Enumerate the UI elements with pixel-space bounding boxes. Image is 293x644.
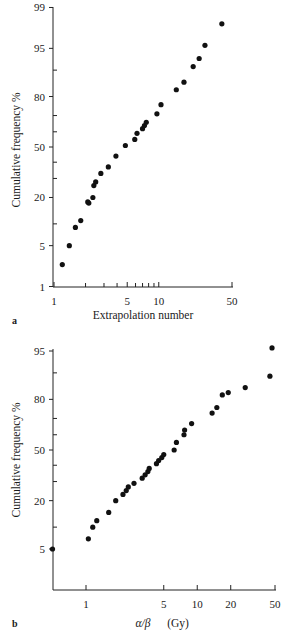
data-points	[50, 345, 275, 551]
figure-canvas: 152050809599 151050 Cumulative frequency…	[0, 0, 293, 644]
y-axis-title: Cumulative frequency %	[10, 92, 23, 207]
data-point	[67, 243, 72, 248]
data-point	[182, 427, 187, 432]
x-tick-label: 20	[225, 598, 237, 610]
data-point	[73, 225, 78, 230]
data-point	[189, 421, 194, 426]
y-axis-title: Cumulative frequency %	[10, 402, 23, 517]
y-tick-label: 50	[34, 141, 46, 153]
y-tick-label: 95	[34, 42, 46, 54]
x-tick-label: 1	[83, 598, 89, 610]
y-tick-label: 99	[34, 1, 46, 13]
data-point	[202, 43, 207, 48]
data-point	[144, 120, 149, 125]
x-axis-ticks: 15102050	[83, 585, 281, 610]
y-tick-label: 50	[34, 444, 46, 456]
chart-panel-b: 520508095 15102050 Cumulative frequency …	[10, 345, 281, 630]
data-point	[214, 405, 219, 410]
data-point	[197, 56, 202, 61]
data-point	[219, 21, 224, 26]
y-tick-label: 20	[34, 495, 46, 507]
data-point	[181, 80, 186, 85]
data-point	[123, 143, 128, 148]
data-point	[98, 171, 103, 176]
data-point	[134, 131, 139, 136]
x-tick-label: 50	[227, 295, 239, 307]
data-point	[154, 111, 159, 116]
data-point	[132, 137, 137, 142]
x-tick-label: 50	[270, 598, 282, 610]
data-point	[267, 374, 272, 379]
data-point	[269, 345, 274, 350]
data-point	[106, 510, 111, 515]
x-tick-label: 1	[51, 295, 57, 307]
x-tick-label: 5	[124, 295, 130, 307]
y-axis-ticks: 520508095	[34, 345, 57, 555]
x-tick-label: 10	[192, 598, 204, 610]
panel-label: b	[12, 618, 18, 629]
x-axis-unit: (Gy)	[167, 617, 189, 630]
y-tick-label: 5	[40, 240, 46, 252]
chart-panel-a: 152050809599 151050 Cumulative frequency…	[10, 1, 238, 326]
data-point	[158, 102, 163, 107]
data-point	[209, 411, 214, 416]
x-axis-title: Extrapolation number	[93, 309, 194, 322]
data-point	[86, 536, 91, 541]
data-point	[90, 525, 95, 530]
y-tick-label: 20	[34, 191, 46, 203]
data-point	[131, 481, 136, 486]
data-point	[90, 195, 95, 200]
data-point	[220, 392, 225, 397]
data-point	[93, 179, 98, 184]
x-axis-ticks: 151050	[51, 282, 238, 307]
data-point	[147, 466, 152, 471]
data-point	[161, 452, 166, 457]
data-point	[174, 440, 179, 445]
data-point	[226, 390, 231, 395]
x-axis-title: α/β	[136, 617, 151, 630]
data-point	[113, 153, 118, 158]
data-point	[94, 518, 99, 523]
y-tick-label: 80	[34, 393, 46, 405]
panel-label: a	[12, 315, 17, 326]
x-tick-label: 10	[153, 295, 165, 307]
data-point	[181, 432, 186, 437]
data-point	[126, 484, 131, 489]
y-tick-label: 1	[40, 281, 46, 293]
data-point	[113, 498, 118, 503]
data-point	[172, 447, 177, 452]
data-point	[50, 546, 55, 551]
data-point	[86, 200, 91, 205]
data-point	[60, 262, 65, 267]
data-point	[106, 164, 111, 169]
y-tick-label: 5	[40, 543, 46, 555]
data-point	[191, 64, 196, 69]
y-tick-label: 80	[34, 91, 46, 103]
data-point	[78, 218, 83, 223]
data-point	[243, 385, 248, 390]
y-tick-label: 95	[34, 345, 46, 357]
y-axis-ticks: 152050809599	[34, 1, 57, 292]
data-points	[60, 21, 225, 267]
x-tick-label: 5	[161, 598, 167, 610]
data-point	[174, 87, 179, 92]
